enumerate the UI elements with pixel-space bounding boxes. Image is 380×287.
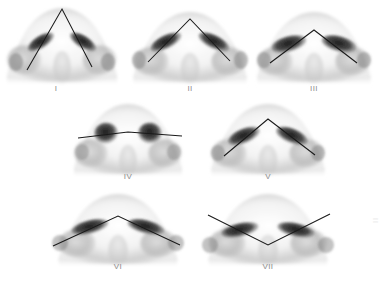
panel-label-7: VII: [263, 262, 274, 271]
panel-label-3: III: [310, 84, 318, 93]
figure-watermark: II: [372, 218, 379, 224]
panel-label-5: V: [265, 172, 271, 181]
nasal-tip-configurations-figure: [0, 0, 380, 287]
panel-label-1: I: [55, 84, 58, 93]
panel-label-6: VI: [114, 262, 122, 271]
panel-label-4: IV: [124, 172, 132, 181]
panel-label-2: II: [187, 84, 192, 93]
